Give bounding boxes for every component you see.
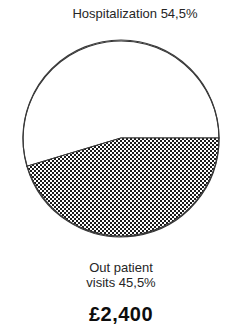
slice-label-line-2: visits 45,5% bbox=[0, 275, 242, 290]
slice-label-line-1: Out patient bbox=[89, 260, 153, 275]
total-value-annotation: £2,400 bbox=[0, 303, 242, 326]
slice-label-out-patient-visits: Out patient visits 45,5% bbox=[0, 260, 242, 290]
pie-chart-figure: Hospitalization 54,5% Out patient visits… bbox=[0, 0, 242, 331]
